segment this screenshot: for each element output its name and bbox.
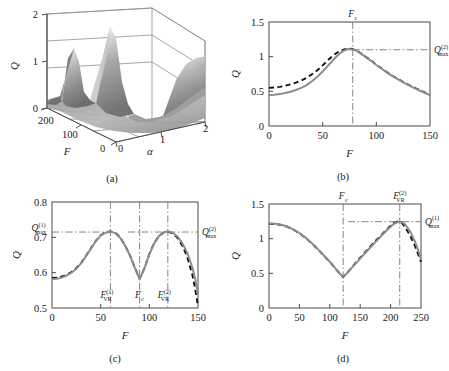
y-axis-label: Q bbox=[229, 70, 241, 78]
x-tick-label: 50 bbox=[95, 312, 106, 323]
surface-y-tick-1: 1 bbox=[160, 134, 165, 145]
curve-solid bbox=[269, 222, 421, 277]
y-tick-label: 0.5 bbox=[251, 268, 264, 279]
panel-b-svg: 05010015000.511.5FQFcQ(2)max (b) bbox=[225, 0, 449, 190]
marker-label: Q(2)max bbox=[202, 225, 217, 240]
subplot-c-caption: (c) bbox=[109, 353, 121, 365]
x-tick-label: 100 bbox=[141, 312, 157, 323]
x-tick-label: 150 bbox=[422, 130, 438, 141]
x-tick-label: 50 bbox=[294, 312, 305, 323]
y-tick-label: 0 bbox=[259, 303, 264, 314]
x-axis-label: F bbox=[341, 329, 349, 341]
plot-frame bbox=[52, 202, 198, 308]
surface-x-axis-label: F bbox=[63, 145, 71, 157]
subplot-d-caption: (d) bbox=[337, 353, 350, 365]
subplot-b-line: 05010015000.511.5FQFcQ(2)max (b) bbox=[225, 0, 449, 190]
y-tick-label: 1.5 bbox=[251, 199, 264, 210]
marker-label: Fc bbox=[347, 9, 357, 21]
x-tick-label: 150 bbox=[190, 312, 206, 323]
x-axis-label: F bbox=[121, 329, 129, 341]
svg-text:F(2)VR: F(2)VR bbox=[157, 288, 171, 303]
marker-label: Q(2)max bbox=[434, 43, 449, 58]
marker-label: Q(1)max bbox=[425, 214, 440, 229]
svg-text:F(1)VR: F(1)VR bbox=[99, 288, 113, 303]
surface-z-axis: 2 1 0 Q bbox=[8, 9, 47, 114]
svg-text:Q(2)max: Q(2)max bbox=[434, 43, 449, 58]
marker-label: F(2)VR bbox=[392, 189, 406, 204]
surface-x-tick-0: 0 bbox=[100, 143, 105, 154]
subplot-c-line: 0501001500.50.60.70.8FQQ(1)maxQ(2)maxF(1… bbox=[0, 180, 225, 371]
y-tick-label: 0.5 bbox=[251, 86, 264, 97]
curve-solid bbox=[52, 231, 198, 294]
surface-x-tick-100: 100 bbox=[62, 129, 78, 140]
surface-plot-svg: 2 1 0 Q 200 100 0 F 0 1 2 α bbox=[0, 0, 225, 190]
svg-text:Fc: Fc bbox=[338, 191, 348, 203]
y-tick-label: 0.8 bbox=[34, 197, 47, 208]
figure-panel-grid: 2 1 0 Q 200 100 0 F 0 1 2 α bbox=[0, 0, 449, 371]
x-axis-label: F bbox=[345, 147, 353, 159]
y-tick-label: 0 bbox=[259, 121, 264, 132]
curve-solid bbox=[269, 49, 430, 95]
marker-label: F(1)VR bbox=[99, 288, 113, 303]
subplot-a-surface: 2 1 0 Q 200 100 0 F 0 1 2 α bbox=[0, 0, 225, 190]
x-tick-label: 50 bbox=[317, 130, 328, 141]
surface-y-axis-label: α bbox=[147, 145, 153, 157]
surface-x-tick-200: 200 bbox=[38, 115, 54, 126]
panel-d-svg: 05010015020025000.511.5FQFcF(2)VRQ(1)max… bbox=[225, 180, 449, 371]
subplot-d-line: 05010015020025000.511.5FQFcF(2)VRQ(1)max… bbox=[225, 180, 449, 371]
svg-text:Fc: Fc bbox=[347, 9, 357, 21]
svg-text:Q(2)max: Q(2)max bbox=[202, 225, 217, 240]
y-tick-label: 1 bbox=[259, 233, 264, 244]
y-axis-label: Q bbox=[10, 251, 22, 259]
y-axis-label: Q bbox=[229, 252, 241, 260]
surface-z-tick-2: 2 bbox=[33, 9, 38, 20]
curve-dashed bbox=[52, 231, 198, 306]
curve-dashed bbox=[269, 49, 430, 95]
x-tick-label: 0 bbox=[266, 130, 271, 141]
curve-dashed bbox=[269, 221, 421, 276]
surface-y-tick-2: 2 bbox=[203, 123, 208, 134]
surface-z-axis-label: Q bbox=[8, 62, 20, 70]
surface-y-tick-0: 0 bbox=[118, 143, 123, 154]
plot-frame bbox=[269, 204, 421, 308]
marker-label: Fc bbox=[338, 191, 348, 203]
y-tick-label: 1.5 bbox=[251, 17, 264, 28]
svg-text:Q(1)max: Q(1)max bbox=[425, 214, 440, 229]
x-tick-label: 150 bbox=[352, 312, 368, 323]
panel-c-svg: 0501001500.50.60.70.8FQQ(1)maxQ(2)maxF(1… bbox=[0, 180, 225, 371]
y-tick-label: 1 bbox=[259, 51, 264, 62]
plot-frame bbox=[269, 22, 430, 126]
x-tick-label: 0 bbox=[266, 312, 271, 323]
svg-text:F(2)VR: F(2)VR bbox=[392, 189, 406, 204]
surface-z-tick-0: 0 bbox=[33, 103, 38, 114]
x-tick-label: 0 bbox=[49, 312, 54, 323]
y-tick-label: 0.6 bbox=[34, 267, 47, 278]
x-tick-label: 100 bbox=[322, 312, 338, 323]
marker-label: F(2)VR bbox=[157, 288, 171, 303]
x-tick-label: 100 bbox=[368, 130, 384, 141]
x-tick-label: 250 bbox=[413, 312, 429, 323]
x-tick-label: 200 bbox=[383, 312, 399, 323]
y-tick-label: 0.5 bbox=[34, 303, 47, 314]
surface-z-tick-1: 1 bbox=[33, 56, 38, 67]
